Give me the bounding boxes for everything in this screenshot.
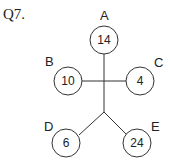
node-value: 6 (63, 136, 70, 150)
node-value: 4 (137, 74, 144, 88)
node-label: E (151, 119, 160, 134)
node-value: 10 (61, 74, 75, 88)
edge-to-d (79, 112, 104, 135)
node-value: 14 (97, 33, 111, 47)
node-e: 24E (123, 119, 160, 157)
node-c: 4C (126, 55, 163, 95)
node-label: B (45, 54, 54, 69)
node-label: D (44, 119, 53, 134)
tree-diagram: 14A10B4C6D24E (0, 0, 171, 166)
node-d: 6D (44, 119, 80, 157)
node-label: A (100, 8, 109, 23)
edges (79, 54, 126, 135)
node-value: 24 (130, 136, 144, 150)
edge-to-e (104, 112, 126, 134)
node-a: 14A (90, 8, 118, 54)
node-label: C (154, 55, 163, 70)
node-b: 10B (45, 54, 82, 95)
